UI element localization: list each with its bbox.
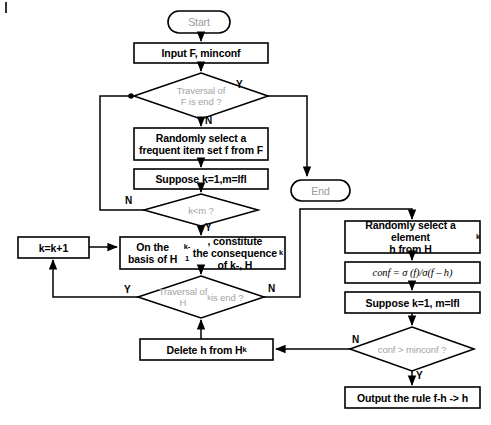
flowchart-connectors: [0, 0, 491, 425]
node-end-shape: [291, 180, 350, 201]
node-select-f-shape: [134, 128, 268, 160]
node-delete-h-shape: [140, 339, 273, 360]
node-select-h-shape: [345, 221, 480, 253]
node-constitute-shape: [120, 237, 285, 269]
node-traversal-hk-shape: [138, 276, 264, 318]
node-output-rule-shape: [345, 387, 480, 408]
node-conf-formula-shape: [345, 262, 480, 283]
node-conf-decision-shape: [350, 327, 474, 371]
node-start-shape: [168, 11, 230, 33]
flowchart-canvas: Start Input F, minconf Traversal of F is…: [0, 0, 491, 425]
node-suppose-left-shape: [134, 169, 268, 189]
node-traversal-f-shape: [134, 73, 268, 119]
edge-traversal-f-yes: [268, 96, 307, 176]
node-k-increment-shape: [18, 237, 89, 258]
node-k-lt-m-shape: [144, 194, 258, 226]
node-input-shape: [134, 43, 268, 63]
node-suppose-right-shape: [345, 292, 480, 313]
